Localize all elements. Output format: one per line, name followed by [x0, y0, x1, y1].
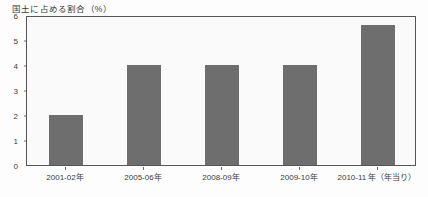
x-axis: 2001-02年2005-06年2008-09年2009-10年2010-11 …	[26, 168, 416, 190]
bar	[361, 25, 395, 165]
x-tick-mark	[221, 167, 222, 170]
y-tick-label: 5	[14, 37, 18, 46]
y-axis: 0123456	[0, 16, 24, 166]
x-tick-label: 2005-06年	[124, 171, 161, 182]
x-tick-mark	[299, 167, 300, 170]
plot-area	[26, 16, 416, 166]
y-tick-label: 3	[14, 87, 18, 96]
y-tick-label: 2	[14, 112, 18, 121]
bar	[49, 115, 83, 165]
x-tick-mark	[65, 167, 66, 170]
bar-slot	[361, 17, 395, 165]
y-tick-label: 1	[14, 137, 18, 146]
chart-title: 国土に占める割合（%）	[12, 2, 112, 14]
bar	[127, 65, 161, 165]
bar	[283, 65, 317, 165]
x-tick-mark	[377, 167, 378, 170]
x-tick-mark	[143, 167, 144, 170]
y-tick-label: 0	[14, 162, 18, 171]
x-tick-label: 2001-02年	[46, 171, 83, 182]
bars-container	[27, 17, 415, 165]
x-tick-label: 2008-09年	[202, 171, 239, 182]
bar-slot	[127, 17, 161, 165]
y-tick-label: 6	[14, 12, 18, 21]
bar-chart-figure: 国土に占める割合（%） 0123456 2001-02年2005-06年2008…	[0, 0, 428, 197]
y-tick-label: 4	[14, 62, 18, 71]
bar-slot	[49, 17, 83, 165]
bar	[205, 65, 239, 165]
bar-slot	[283, 17, 317, 165]
bar-slot	[205, 17, 239, 165]
x-tick-label: 2009-10年	[280, 171, 317, 182]
x-tick-label: 2010-11 年（年当り）	[338, 171, 417, 182]
